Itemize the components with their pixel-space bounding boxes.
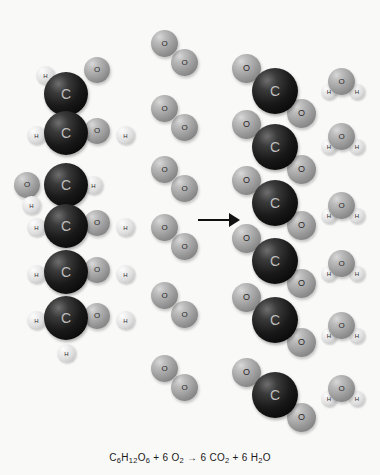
atom-label: C <box>270 84 280 98</box>
carbon-atom: C <box>252 68 298 114</box>
atom-label: H <box>123 272 127 278</box>
equation-subscript: 12 <box>129 456 138 465</box>
atom-label: H <box>34 133 38 139</box>
oxygen-atom: O <box>151 30 178 57</box>
atom-label: H <box>91 183 95 189</box>
atom-label: O <box>243 293 250 302</box>
hydrogen-atom: H <box>116 311 135 330</box>
oxygen-atom: O <box>171 233 198 260</box>
atom-label: O <box>243 234 250 243</box>
carbon-atom: C <box>252 124 298 170</box>
atom-label: C <box>61 126 71 140</box>
atom-label: O <box>181 124 187 132</box>
atom-label: O <box>338 202 344 210</box>
atom-label: O <box>161 166 167 174</box>
oxygen-atom: O <box>171 301 198 328</box>
atom-label: O <box>298 109 305 118</box>
atom-label: O <box>338 322 344 330</box>
atom-label: O <box>161 224 167 232</box>
atom-label: O <box>181 384 187 392</box>
atom-label: O <box>161 40 167 48</box>
atom-label: O <box>243 368 250 377</box>
oxygen-atom: O <box>328 250 355 277</box>
oxygen-atom: O <box>328 375 355 402</box>
hydrogen-atom: H <box>116 126 135 145</box>
hydrogen-atom: H <box>27 126 46 145</box>
atom-label: O <box>161 365 167 373</box>
equation-text: → 6 CO <box>184 452 225 463</box>
atom-label: O <box>243 64 250 73</box>
oxygen-atom: O <box>151 355 178 382</box>
atom-label: O <box>298 165 305 174</box>
equation-text: C <box>109 452 117 463</box>
atom-label: O <box>94 127 100 135</box>
atom-label: O <box>161 105 167 113</box>
atom-label: O <box>338 78 344 86</box>
atom-label: C <box>270 313 280 327</box>
atom-label: C <box>270 254 280 268</box>
carbon-atom: C <box>44 163 88 207</box>
hydrogen-atom: H <box>116 218 135 237</box>
atom-label: C <box>61 87 71 101</box>
oxygen-atom: O <box>151 282 178 309</box>
oxygen-atom: O <box>328 68 355 95</box>
reaction-diagram: HOCHHOCOHHCHHOCHHOCHHOCH OOOOOOOOOOOO OO… <box>0 0 380 475</box>
atom-label: O <box>338 133 344 141</box>
atom-label: H <box>355 271 359 277</box>
atom-label: O <box>298 338 305 347</box>
atom-label: C <box>270 388 280 402</box>
carbon-atom: C <box>252 238 298 284</box>
oxygen-atom: O <box>328 123 355 150</box>
oxygen-atom: O <box>84 57 110 83</box>
oxygen-atom: O <box>14 172 40 198</box>
hydrogen-atom: H <box>57 344 76 363</box>
atom-label: O <box>94 266 100 274</box>
atom-label: H <box>34 225 38 231</box>
oxygen-atom: O <box>171 374 198 401</box>
atom-label: O <box>338 260 344 268</box>
carbon-atom: C <box>44 250 88 294</box>
equation-text: H <box>121 452 129 463</box>
equation-text: O <box>138 452 146 463</box>
atom-label: C <box>61 265 71 279</box>
carbon-atom: C <box>44 111 88 155</box>
atom-label: O <box>298 413 305 422</box>
atom-label: H <box>123 318 127 324</box>
atom-label: C <box>61 178 71 192</box>
hydrogen-atom: H <box>116 265 135 284</box>
atom-label: C <box>270 196 280 210</box>
oxygen-atom: O <box>171 114 198 141</box>
atom-label: O <box>338 385 344 393</box>
atom-label: H <box>355 213 359 219</box>
atom-label: H <box>43 73 47 79</box>
equation-text: + 6 H <box>230 452 259 463</box>
atom-label: C <box>270 140 280 154</box>
carbon-atom: C <box>44 204 88 248</box>
atom-label: O <box>181 311 187 319</box>
atom-label: O <box>94 219 100 227</box>
atom-label: O <box>94 312 100 320</box>
oxygen-atom: O <box>328 192 355 219</box>
oxygen-atom: O <box>328 312 355 339</box>
atom-label: O <box>181 59 187 67</box>
atom-label: O <box>243 176 250 185</box>
atom-label: O <box>298 279 305 288</box>
oxygen-atom: O <box>151 95 178 122</box>
atom-label: O <box>243 120 250 129</box>
equation-text: + 6 O <box>150 452 179 463</box>
atom-label: H <box>355 333 359 339</box>
equation-text: O <box>263 452 271 463</box>
atom-label: C <box>61 311 71 325</box>
reaction-arrow <box>198 213 240 227</box>
carbon-atom: C <box>252 180 298 226</box>
atom-label: H <box>355 144 359 150</box>
oxygen-atom: O <box>171 49 198 76</box>
atom-label: O <box>24 181 30 189</box>
atom-label: H <box>123 133 127 139</box>
atom-label: O <box>298 221 305 230</box>
atom-label: C <box>61 219 71 233</box>
atom-label: H <box>355 396 359 402</box>
atom-label: H <box>123 225 127 231</box>
carbon-atom: C <box>252 372 298 418</box>
atom-label: O <box>161 292 167 300</box>
